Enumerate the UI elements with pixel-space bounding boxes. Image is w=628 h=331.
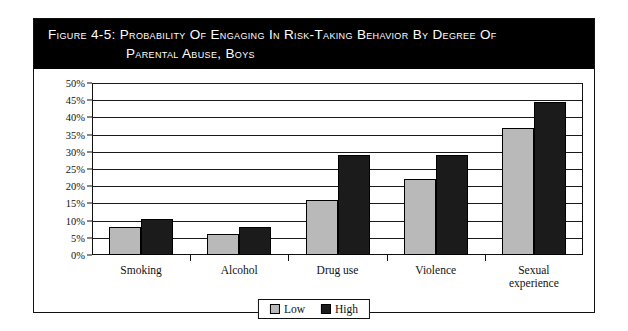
y-axis-tick-label: 20% <box>66 181 85 192</box>
y-axis-tick-label: 0% <box>71 250 85 261</box>
legend-swatch-low <box>270 304 280 314</box>
y-axis-tick-label: 25% <box>66 164 85 175</box>
y-axis-tick-label: 15% <box>66 198 85 209</box>
x-axis-tick-mark <box>190 255 191 261</box>
legend-swatch-high <box>321 304 331 314</box>
y-axis-tick-mark <box>87 151 92 152</box>
bar-low <box>502 128 534 255</box>
plot-area: 0%5%10%15%20%25%30%35%40%45%50% SmokingA… <box>92 83 583 255</box>
y-axis-tick-mark <box>87 117 92 118</box>
x-axis-category-label: Alcohol <box>221 264 258 277</box>
bar-group <box>109 83 173 255</box>
bar-group <box>306 83 370 255</box>
x-axis-tick-mark <box>485 255 486 261</box>
legend-label: High <box>335 303 358 315</box>
bar-high <box>239 227 271 255</box>
y-axis-tick-mark <box>87 134 92 135</box>
legend-entry-low[interactable]: Low <box>270 303 305 315</box>
figure-title-banner: Figure 4-5: Probability of Engaging in R… <box>34 19 594 69</box>
y-axis-tick-mark <box>87 169 92 170</box>
y-axis-tick-label: 40% <box>66 112 85 123</box>
y-axis-tick-mark <box>87 203 92 204</box>
bar-low <box>404 179 436 255</box>
bar-low <box>109 227 141 255</box>
y-axis-tick-mark <box>87 237 92 238</box>
y-axis-tick-label: 50% <box>66 78 85 89</box>
legend-label: Low <box>284 303 305 315</box>
y-axis-tick-mark <box>87 220 92 221</box>
y-axis-tick-mark <box>87 100 92 101</box>
legend-entry-high[interactable]: High <box>321 303 358 315</box>
y-axis-tick-label: 45% <box>66 95 85 106</box>
y-axis-tick-label: 30% <box>66 146 85 157</box>
y-axis-tick-label: 5% <box>71 232 85 243</box>
figure-frame: Figure 4-5: Probability of Engaging in R… <box>33 18 595 313</box>
chart-legend: LowHigh <box>258 299 370 319</box>
x-axis-category-label: Smoking <box>120 264 162 277</box>
bar-high <box>534 102 566 255</box>
chart-area: 0%5%10%15%20%25%30%35%40%45%50% SmokingA… <box>34 69 594 312</box>
x-axis-category-label: Drug use <box>317 264 359 277</box>
bar-group <box>502 83 566 255</box>
y-axis-tick-label: 35% <box>66 129 85 140</box>
bar-high <box>436 155 468 255</box>
x-axis-tick-mark <box>288 255 289 261</box>
x-axis-category-label: Violence <box>415 264 456 277</box>
y-axis-tick-mark <box>87 186 92 187</box>
bar-group <box>404 83 468 255</box>
bar-low <box>207 234 239 255</box>
bar-high <box>338 155 370 255</box>
y-axis-tick-mark <box>87 83 92 84</box>
y-axis-tick-label: 10% <box>66 215 85 226</box>
bar-group <box>207 83 271 255</box>
bar-low <box>306 200 338 255</box>
figure-title-line-2: Parental Abuse, Boys <box>48 44 580 63</box>
x-axis-category-label: Sexual experience <box>509 264 559 290</box>
figure-title-line-1: Figure 4-5: Probability of Engaging in R… <box>48 25 580 44</box>
bar-high <box>141 219 173 255</box>
x-axis-tick-mark <box>387 255 388 261</box>
y-axis-tick-mark <box>87 255 92 256</box>
